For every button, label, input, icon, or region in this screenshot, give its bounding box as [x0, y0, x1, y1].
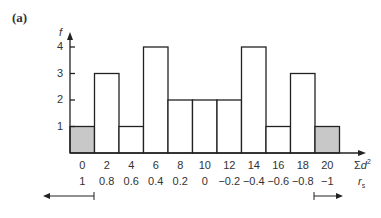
- bar: [95, 74, 120, 154]
- bar: [217, 100, 242, 153]
- bar: [168, 100, 193, 153]
- x-tick-label: 2: [95, 159, 120, 171]
- y-tick-label: 2: [57, 93, 63, 105]
- x-tick-label: 8: [168, 159, 193, 171]
- bar: [291, 74, 316, 154]
- bar: [144, 47, 169, 153]
- x-tick-label: 18: [291, 159, 316, 171]
- x-tick-label: 10: [193, 159, 218, 171]
- x-tick-label: 6: [144, 159, 169, 171]
- bar: [70, 127, 95, 154]
- x-tick-label: 4: [119, 159, 144, 171]
- x-tick-label: 14: [242, 159, 267, 171]
- rs-tick-label: −1: [311, 175, 344, 187]
- x-tick-label: 16: [266, 159, 291, 171]
- y-tick-label: 4: [57, 40, 63, 52]
- bar: [266, 127, 291, 154]
- bar: [193, 100, 218, 153]
- x-axis-label: Σd2: [354, 158, 371, 171]
- x-tick-label: 0: [70, 159, 95, 171]
- y-tick-label: 1: [57, 120, 63, 132]
- bar: [242, 47, 267, 153]
- x-tick-label: 20: [315, 159, 340, 171]
- x-tick-label: 12: [217, 159, 242, 171]
- y-axis-label: f: [59, 26, 62, 38]
- y-tick-label: 3: [57, 67, 63, 79]
- bar: [119, 127, 144, 154]
- bar: [315, 127, 340, 154]
- rs-axis-label: rs: [358, 175, 365, 189]
